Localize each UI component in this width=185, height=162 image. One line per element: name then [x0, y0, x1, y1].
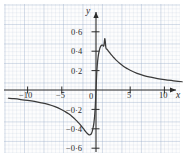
- origin-label: 0: [89, 92, 93, 101]
- y-tick-label-0-4: 0·4: [71, 47, 82, 56]
- y-tick-label-neg0-2: −0·2: [66, 106, 82, 115]
- axes-group: [4, 12, 176, 152]
- x-tick-label-neg5: −5: [56, 91, 65, 100]
- x-tick-label-10: 10: [159, 91, 168, 100]
- chart-figure: y x 0 −10 −5 5 10 0·6 0·4 0·2 −0·2 −0·4 …: [0, 0, 185, 162]
- y-tick-label-0-2: 0·2: [71, 67, 82, 76]
- y-axis-arrowhead: [93, 12, 98, 18]
- y-tick-label-neg0-4: −0·4: [66, 125, 82, 134]
- y-axis-label: y: [86, 7, 90, 17]
- y-tick-label-0-6: 0·6: [71, 28, 82, 37]
- x-tick-label-neg10: −10: [19, 91, 32, 100]
- y-tick-label-neg0-6: −0·6: [66, 144, 82, 153]
- function-curve: [8, 39, 182, 135]
- plot-area: [0, 0, 185, 162]
- x-tick-label-5: 5: [127, 91, 131, 100]
- x-axis-label: x: [176, 91, 180, 101]
